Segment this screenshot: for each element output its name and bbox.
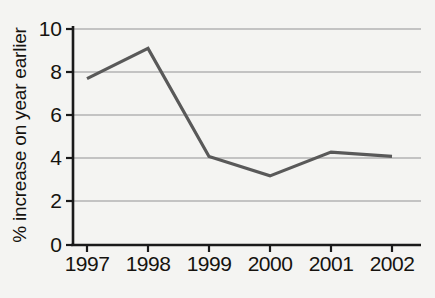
x-tick-label-2002: 2002 bbox=[357, 252, 427, 276]
data-series-line bbox=[87, 48, 392, 175]
x-tick-label-2001: 2001 bbox=[296, 252, 366, 276]
gridlines bbox=[73, 29, 421, 201]
x-tick-label-1999: 1999 bbox=[174, 252, 244, 276]
x-tick-label-1997: 1997 bbox=[52, 252, 122, 276]
x-tick-label-1998: 1998 bbox=[113, 252, 183, 276]
x-tick-label-2000: 2000 bbox=[235, 252, 305, 276]
line-chart: % increase on year earlier 10 8 6 4 2 0 bbox=[0, 0, 435, 298]
